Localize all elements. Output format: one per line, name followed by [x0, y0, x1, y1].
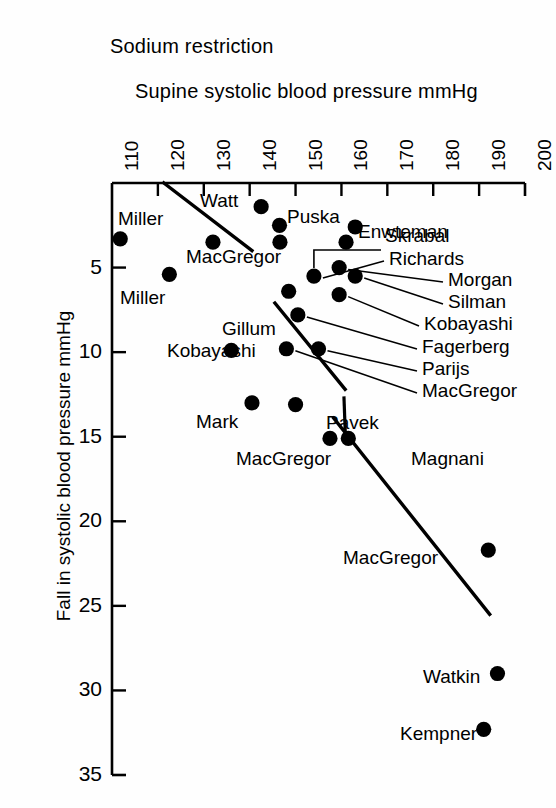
- data-point-label: Watkin: [423, 666, 480, 688]
- data-point: [332, 287, 347, 302]
- data-point-label: Miller: [120, 287, 165, 309]
- data-point: [162, 267, 177, 282]
- data-point-label: MacGregor: [343, 547, 438, 569]
- data-point-label: MacGregor: [186, 246, 281, 268]
- data-point: [290, 307, 305, 322]
- data-point-label: MacGregor: [236, 448, 331, 470]
- data-point-label: Mark: [196, 411, 238, 433]
- data-point-label: Gillum: [222, 318, 276, 340]
- data-point-label: Watt: [200, 190, 238, 212]
- data-point: [490, 666, 505, 681]
- data-point-label: Pavek: [326, 412, 379, 434]
- data-point-label: Silman: [448, 291, 506, 313]
- data-point-label: Kobayashi: [167, 340, 256, 362]
- data-point: [476, 722, 491, 737]
- data-point: [481, 542, 496, 557]
- data-point-label: Fagerberg: [422, 336, 510, 358]
- data-point-label: Enwteman: [358, 221, 448, 243]
- data-point: [338, 235, 353, 250]
- data-point: [113, 231, 128, 246]
- data-point: [311, 341, 326, 356]
- data-point: [332, 260, 347, 275]
- data-point-label: MacGregor: [422, 380, 517, 402]
- data-point: [348, 268, 363, 283]
- data-point-label: Morgan: [448, 269, 512, 291]
- data-point-label: Richards: [389, 248, 464, 270]
- data-point: [272, 218, 287, 233]
- data-point-label: Kobayashi: [424, 313, 513, 335]
- data-point: [281, 284, 296, 299]
- data-point: [244, 395, 259, 410]
- figure: Sodium restriction Supine systolic blood…: [0, 0, 556, 808]
- data-point: [254, 199, 269, 214]
- data-point-label: Miller: [118, 208, 163, 230]
- data-point: [306, 268, 321, 283]
- data-point-label: Kempner: [400, 723, 477, 745]
- data-point: [288, 397, 303, 412]
- data-point-label: Puska: [287, 206, 340, 228]
- data-point: [279, 341, 294, 356]
- data-point-label: Magnani: [411, 448, 484, 470]
- data-point-label: Parijs: [422, 358, 470, 380]
